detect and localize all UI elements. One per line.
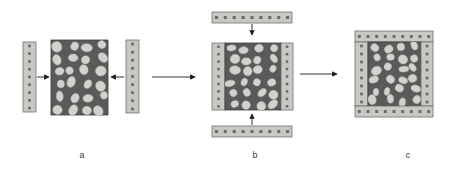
bottom-strip-dot <box>286 130 289 133</box>
stage-label-c: c <box>398 150 418 161</box>
bottom-strip-dot <box>277 130 280 133</box>
assembly-left-strip-dot <box>217 105 220 108</box>
stage-group-c <box>355 31 433 117</box>
final-right-strip-dot <box>426 69 429 72</box>
final-right-strip-body <box>421 42 433 106</box>
assembly-right-strip-dot <box>286 90 289 93</box>
final-left-strip-dot <box>360 53 363 56</box>
final-left-strip-dot <box>360 101 363 104</box>
top-strip-dot <box>286 16 289 19</box>
top-strip-dot <box>268 16 271 19</box>
final-bottom-strip-dot <box>367 110 370 113</box>
left-strip-dot <box>28 68 31 71</box>
assembly-left-strip-dot <box>217 53 220 56</box>
bottom-strip-dot <box>259 130 262 133</box>
figure-canvas <box>0 0 466 170</box>
final-right-strip-dot <box>426 93 429 96</box>
right-strip-dot <box>131 91 134 94</box>
final-left-strip-dot <box>360 77 363 80</box>
final-bottom-strip-dot <box>427 110 430 113</box>
final-top-strip-dot <box>384 35 387 38</box>
process-figure: a b c <box>0 0 466 170</box>
stage-group-b <box>212 12 293 137</box>
assembly-right-strip-dot <box>286 83 289 86</box>
final-bottom-strip-dot <box>393 110 396 113</box>
final-left-strip-dot <box>360 85 363 88</box>
assembly-right-strip-dot <box>286 53 289 56</box>
assembly-left-strip-dot <box>217 45 220 48</box>
final-right-strip-dot <box>426 85 429 88</box>
left-strip-dot <box>28 91 31 94</box>
top-strip-dot <box>233 16 236 19</box>
assembly-right-strip-dot <box>286 75 289 78</box>
final-left-strip-dot <box>360 69 363 72</box>
assembly-right-strip-dot <box>286 60 289 63</box>
left-strip-dot <box>28 52 31 55</box>
bottom-strip-dot <box>215 130 218 133</box>
assembly-right-strip-dot <box>286 45 289 48</box>
right-strip-dot <box>131 75 134 78</box>
assembly-right-strip-dot <box>286 98 289 101</box>
right-strip-dot <box>131 43 134 46</box>
stage-group-a <box>23 39 139 118</box>
final-bottom-strip-dot <box>401 110 404 113</box>
diagram-root <box>23 12 433 137</box>
final-bottom-strip-dot <box>375 110 378 113</box>
final-right-strip-dot <box>426 77 429 80</box>
final-top-strip-dot <box>401 35 404 38</box>
final-bottom-strip-dot <box>384 110 387 113</box>
final-core-block-pore <box>373 88 379 96</box>
bottom-strip-dot <box>224 130 227 133</box>
left-strip-dot <box>28 45 31 48</box>
right-strip-dot <box>131 59 134 62</box>
left-strip-dot <box>28 107 31 110</box>
left-strip-dot <box>28 60 31 63</box>
assembly-left-strip-dot <box>217 83 220 86</box>
final-top-strip-dot <box>410 35 413 38</box>
top-strip-dot <box>242 16 245 19</box>
right-strip-dot <box>131 83 134 86</box>
final-left-strip-dot <box>360 61 363 64</box>
final-left-strip-dot <box>360 45 363 48</box>
left-strip-dot <box>28 76 31 79</box>
assembly-left-strip-dot <box>217 98 220 101</box>
final-bottom-strip-dot <box>358 110 361 113</box>
final-top-strip-dot <box>367 35 370 38</box>
stage-label-a: a <box>72 150 92 161</box>
final-bottom-strip-dot <box>410 110 413 113</box>
final-left-strip-dot <box>360 93 363 96</box>
bottom-strip-dot <box>233 130 236 133</box>
assembly-left-strip-dot <box>217 68 220 71</box>
final-top-strip-dot <box>375 35 378 38</box>
right-strip-dot <box>131 108 134 111</box>
assembly-left-strip-dot <box>217 90 220 93</box>
right-strip-dot <box>131 67 134 70</box>
assembly-right-strip-dot <box>286 68 289 71</box>
left-strip-dot <box>28 99 31 102</box>
right-strip-dot <box>131 51 134 54</box>
assembly-right-strip-dot <box>286 105 289 108</box>
stage-label-b: b <box>245 150 265 161</box>
top-strip-dot <box>224 16 227 19</box>
assembly-left-strip-dot <box>217 60 220 63</box>
right-strip-dot <box>131 99 134 102</box>
top-strip-dot <box>259 16 262 19</box>
final-core-block-pore <box>386 53 394 60</box>
top-strip-dot <box>215 16 218 19</box>
core-block-pore <box>57 80 65 88</box>
left-strip-dot <box>28 83 31 86</box>
final-right-strip-dot <box>426 61 429 64</box>
final-top-strip-dot <box>393 35 396 38</box>
bottom-strip-dot <box>250 130 253 133</box>
assembly-left-strip-dot <box>217 75 220 78</box>
bottom-strip-dot <box>242 130 245 133</box>
top-strip-dot <box>277 16 280 19</box>
final-top-strip-dot <box>427 35 430 38</box>
final-bottom-strip-dot <box>419 110 422 113</box>
bottom-strip-dot <box>268 130 271 133</box>
final-top-strip-dot <box>358 35 361 38</box>
final-left-strip-body <box>355 42 368 106</box>
final-right-strip-dot <box>426 101 429 104</box>
final-top-strip-dot <box>419 35 422 38</box>
final-right-strip-dot <box>426 53 429 56</box>
